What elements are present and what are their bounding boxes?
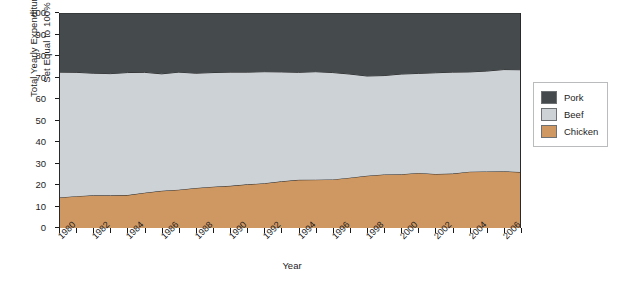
x-axis-title: Year: [232, 260, 352, 271]
plot-area: [59, 13, 521, 228]
legend-item-pork[interactable]: Pork: [541, 89, 598, 106]
y-tick-label: 100: [0, 7, 46, 18]
legend-swatch-icon: [541, 108, 557, 121]
legend-item-beef[interactable]: Beef: [541, 106, 598, 123]
x-tick-mark-1981: [76, 228, 77, 233]
x-tick-mark-2003: [453, 228, 454, 233]
x-tick-mark-1995: [316, 228, 317, 233]
x-tick-mark-1989: [213, 228, 214, 233]
x-tick-mark-1985: [145, 228, 146, 233]
y-tick-label: 70: [0, 72, 46, 83]
x-tick-mark-1997: [350, 228, 351, 233]
y-tick-label: 10: [0, 201, 46, 212]
stacked-area-chart: Total Yearly Expenditures Set Equal to 1…: [0, 0, 622, 282]
legend: PorkBeefChicken: [533, 82, 608, 147]
y-tick-label: 60: [0, 93, 46, 104]
y-tick-label: 50: [0, 115, 46, 126]
x-tick-mark-1993: [281, 228, 282, 233]
y-tick-label: 90: [0, 29, 46, 40]
y-tick-label: 20: [0, 179, 46, 190]
x-tick-mark-1987: [179, 228, 180, 233]
x-tick-mark-2007: [521, 228, 522, 233]
y-tick-label: 30: [0, 158, 46, 169]
y-tick-label: 40: [0, 136, 46, 147]
y-tick-label: 80: [0, 50, 46, 61]
legend-swatch-icon: [541, 125, 557, 138]
x-tick-mark-2005: [487, 228, 488, 233]
x-tick-mark-2001: [418, 228, 419, 233]
legend-label: Pork: [564, 92, 584, 103]
y-axis: 0102030405060708090100: [0, 0, 59, 241]
legend-item-chicken[interactable]: Chicken: [541, 123, 598, 140]
x-tick-mark-1999: [384, 228, 385, 233]
y-tick-label: 0: [0, 222, 46, 233]
x-tick-mark-1991: [247, 228, 248, 233]
area-pork: [59, 13, 521, 76]
legend-label: Chicken: [564, 126, 598, 137]
x-tick-mark-1983: [110, 228, 111, 233]
legend-label: Beef: [564, 109, 584, 120]
legend-swatch-icon: [541, 91, 557, 104]
plot-svg: [59, 13, 521, 228]
